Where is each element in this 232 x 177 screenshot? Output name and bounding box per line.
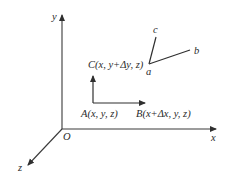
z-axis (28, 129, 62, 165)
deformed-c-label: c (153, 24, 158, 35)
x-axis-label: x (210, 132, 216, 143)
coordinate-diagram: y x z O A(x, y, z) B(x+Δx, y, z) C(x, y+… (0, 0, 232, 177)
origin-label: O (63, 131, 71, 142)
deformed-line-ac (149, 37, 156, 64)
point-a-label: A(x, y, z) (80, 108, 118, 120)
point-c-label: C(x, y+Δy, z) (88, 59, 144, 71)
point-b-label: B(x+Δx, y, z) (136, 108, 191, 120)
deformed-b-label: b (194, 45, 199, 56)
deformed-a-label: a (146, 66, 151, 77)
z-axis-label: z (17, 162, 22, 173)
deformed-line-ab (149, 50, 190, 64)
y-axis-label: y (51, 11, 57, 22)
